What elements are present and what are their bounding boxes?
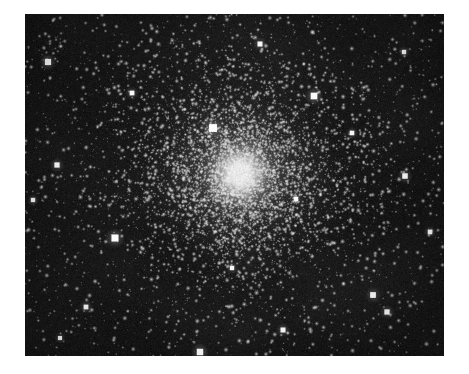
image-page bbox=[0, 0, 469, 374]
star-field-canvas bbox=[25, 14, 444, 356]
astronomical-plate bbox=[25, 14, 444, 356]
